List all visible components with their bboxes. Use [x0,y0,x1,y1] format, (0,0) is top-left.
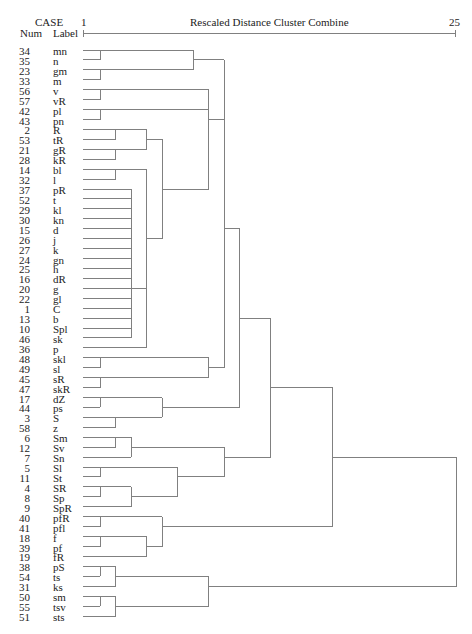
case-row: 51sts [19,611,65,623]
distance-axis [83,30,455,37]
case-number: 51 [19,611,30,623]
case-rows: 34mn35n23gm33m56v57vR42pl43pn2R53tR21gR2… [19,45,73,623]
dendrogram-chart: CASE 1 Rescaled Distance Cluster Combine… [0,0,472,634]
case-label: sts [53,611,65,623]
axis-max-tick-label: 25 [449,16,461,28]
chart-header: CASE 1 Rescaled Distance Cluster Combine… [20,16,461,39]
label-column-header: Label [53,27,78,39]
num-column-header: Num [20,27,42,39]
dendrogram-links [83,50,457,616]
axis-min-tick-label: 1 [81,16,87,28]
axis-title: Rescaled Distance Cluster Combine [190,16,349,28]
